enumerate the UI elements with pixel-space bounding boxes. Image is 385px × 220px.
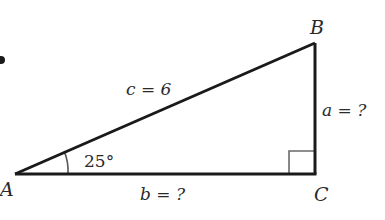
edge-dot-mark	[0, 56, 5, 64]
side-c-hypotenuse	[15, 43, 315, 174]
side-label-b: b = ?	[140, 186, 185, 203]
angle-arc	[64, 151, 68, 174]
vertex-label-b: B	[310, 18, 324, 37]
right-angle-marker	[289, 151, 315, 174]
vertex-label-a: A	[0, 180, 14, 199]
vertex-label-c: C	[314, 185, 329, 204]
angle-label: 25°	[84, 153, 114, 170]
side-label-c: c = 6	[126, 81, 171, 98]
side-label-a: a = ?	[322, 102, 366, 119]
